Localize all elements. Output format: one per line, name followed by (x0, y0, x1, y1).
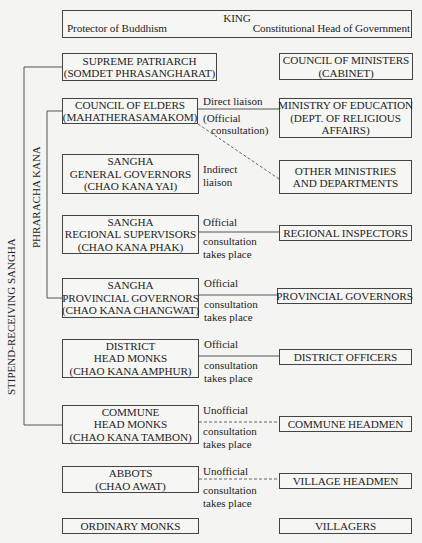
box-line: (CHAO AWAT) (95, 480, 165, 493)
council-of-ministers-box: COUNCIL OF MINISTERS (CABINET) (279, 53, 413, 80)
link-label-above: Unofficial (203, 404, 248, 417)
box-line: COUNCIL OF ELDERS (75, 99, 185, 112)
box-line: SANGHA (107, 216, 153, 229)
link-label-below: consultation (203, 425, 257, 438)
box-line: (SOMDET PHRASANGHARAT) (64, 67, 215, 80)
commune-headmen-box: COMMUNE HEADMEN (279, 416, 412, 432)
box-line: (MAHATHERASAMAKOM) (63, 111, 197, 124)
link-label-above: Direct liaison (203, 95, 263, 108)
link-label-below: takes place (203, 438, 252, 451)
link-label-below: consultation (204, 298, 258, 311)
box-line: AFFAIRS) (321, 124, 369, 137)
king-right-role: Constitutional Head of Government (253, 22, 410, 35)
abbots-box: ABBOTS (CHAO AWAT) (62, 466, 199, 493)
box-line: (CHAO KANA TAMBON) (69, 431, 191, 444)
box-line: REGIONAL SUPERVISORS (65, 228, 196, 241)
box-line: DISTRICT (106, 340, 156, 353)
box-line: COUNCIL OF MINISTERS (283, 54, 409, 67)
district-officers-box: DISTRICT OFFICERS (279, 349, 412, 365)
box-line: AND DEPARTMENTS (293, 177, 398, 190)
box-line: VILLAGE HEADMEN (293, 475, 399, 488)
box-line: (CHAO KANA PHAK) (78, 241, 183, 254)
king-left-role: Protector of Buddhism (67, 22, 167, 35)
link-label-below: consultation) (211, 124, 268, 137)
link-label-above: Official (203, 216, 237, 229)
provincial-governors-box: PROVINCIAL GOVERNORS (277, 288, 412, 304)
link-label-above: Unofficial (203, 465, 248, 478)
box-line: OTHER MINISTRIES (295, 165, 396, 178)
box-line: (DEPT. OF RELIGIOUS (290, 112, 401, 125)
box-line: (CHAO KANA CHANGWAT) (62, 304, 199, 317)
box-line: SANGHA (107, 279, 153, 292)
box-line: COMMUNE HEADMEN (288, 418, 404, 431)
box-line: HEAD MONKS (94, 352, 167, 365)
link-label-below: consultation (203, 235, 257, 248)
box-line: MINISTRY OF EDUCATION (278, 99, 413, 112)
box-line: SUPREME PATRIARCH (83, 55, 197, 68)
sangha-regional-supervisors-box: SANGHA REGIONAL SUPERVISORS (CHAO KANA P… (62, 215, 199, 254)
sangha-provincial-governors-box: SANGHA PROVINCIAL GOVERNORS (CHAO KANA C… (62, 278, 199, 318)
box-line: DISTRICT OFFICERS (294, 351, 397, 364)
council-of-elders-box: COUNCIL OF ELDERS (MAHATHERASAMAKOM) (62, 98, 198, 124)
box-line: (CHAO KANA YAI) (84, 180, 177, 193)
box-line: ABBOTS (109, 467, 153, 480)
box-line: SANGHA (107, 155, 153, 168)
phraracha-kana-label: PHRARACHA KANA (30, 146, 42, 248)
stipend-receiving-sangha-label: STIPEND-RECEIVING SANGHA (5, 238, 17, 395)
link-label-below: takes place (204, 372, 253, 385)
box-line: ORDINARY MONKS (81, 520, 181, 533)
box-line: GENERAL GOVERNORS (70, 168, 191, 181)
box-line: COMMUNE (102, 406, 160, 419)
supreme-patriarch-box: SUPREME PATRIARCH (SOMDET PHRASANGHARAT) (62, 53, 217, 81)
link-label-below: consultation (204, 359, 258, 372)
link-label-above: Indirect (203, 163, 237, 176)
village-headmen-box: VILLAGE HEADMEN (279, 473, 412, 489)
other-ministries-box: OTHER MINISTRIES AND DEPARTMENTS (279, 160, 412, 194)
ministry-of-education-box: MINISTRY OF EDUCATION (DEPT. OF RELIGIOU… (279, 98, 412, 138)
ordinary-monks-box: ORDINARY MONKS (62, 518, 199, 534)
sangha-general-governors-box: SANGHA GENERAL GOVERNORS (CHAO KANA YAI) (62, 154, 199, 194)
box-line: (CHAO KANA AMPHUR) (70, 365, 192, 378)
commune-head-monks-box: COMMUNE HEAD MONKS (CHAO KANA TAMBON) (62, 405, 199, 444)
box-line: HEAD MONKS (94, 418, 167, 431)
link-label-below: consultation (203, 484, 257, 497)
district-head-monks-box: DISTRICT HEAD MONKS (CHAO KANA AMPHUR) (62, 339, 199, 378)
box-line: VILLAGERS (315, 520, 376, 533)
link-label-below: (Official (203, 112, 241, 125)
king-box: KING Protector of Buddhism Constitutiona… (62, 10, 412, 38)
regional-inspectors-box: REGIONAL INSPECTORS (279, 225, 412, 241)
box-line: (CABINET) (318, 67, 373, 80)
link-label-below: takes place (204, 311, 253, 324)
link-label-below: liaison (203, 176, 232, 189)
link-label-above: Official (204, 338, 238, 351)
box-line: REGIONAL INSPECTORS (283, 227, 408, 240)
box-line: PROVINCIAL GOVERNORS (62, 292, 199, 305)
villagers-box: VILLAGERS (279, 518, 412, 534)
link-label-below: takes place (203, 248, 252, 261)
inner-bracket-line (47, 111, 62, 298)
connector-lines (0, 0, 422, 543)
link-label-below: takes place (203, 497, 252, 510)
box-line: PROVINCIAL GOVERNORS (276, 290, 413, 303)
link-label-above: Official (204, 277, 238, 290)
